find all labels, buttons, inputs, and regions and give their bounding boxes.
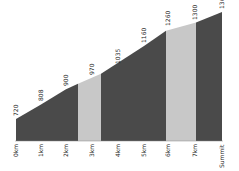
x-tick-label: 5km xyxy=(141,144,147,157)
elevation-segment xyxy=(144,31,166,141)
x-tick-label: 7km xyxy=(192,144,198,157)
elevation-segment xyxy=(166,22,196,141)
elevation-segment xyxy=(101,46,144,141)
elevation-segment xyxy=(41,89,66,141)
x-tick-label: 3km xyxy=(89,144,95,157)
elevation-segment xyxy=(196,12,222,141)
elevation-value-label: 1300 xyxy=(192,5,198,20)
x-tick-label: 0km xyxy=(13,144,19,157)
x-tick-label: 4km xyxy=(115,144,121,157)
elevation-value-label: 900 xyxy=(63,75,69,86)
x-tick-label: 2km xyxy=(63,144,69,157)
x-tick-label: 6km xyxy=(165,144,171,157)
elevation-value-label: 1035 xyxy=(115,48,121,63)
elevation-value-label: 720 xyxy=(13,105,19,116)
elevation-value-label: 1365 xyxy=(219,0,225,9)
elevation-value-label: 808 xyxy=(38,90,44,101)
x-tick-label: 1km xyxy=(38,144,44,157)
elevation-segments xyxy=(16,12,222,141)
elevation-segment xyxy=(78,74,101,141)
x-tick-label: Summit xyxy=(219,144,225,167)
elevation-profile-chart: 72080890097010351160126013001365 0km1km2… xyxy=(0,0,239,171)
elevation-value-label: 970 xyxy=(89,63,95,74)
elevation-segment xyxy=(66,84,78,141)
elevation-value-label: 1260 xyxy=(165,11,171,26)
elevation-segment xyxy=(16,104,41,141)
elevation-value-label: 1160 xyxy=(141,28,147,43)
